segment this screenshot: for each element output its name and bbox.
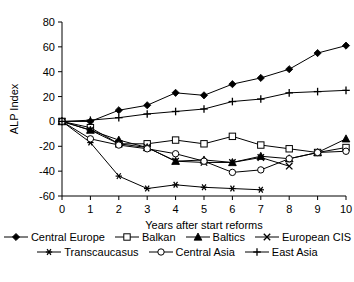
data-point-open-circle — [314, 149, 320, 155]
data-point-asterisk — [258, 187, 264, 193]
y-tick-label: 40 — [43, 66, 55, 78]
data-point-filled-diamond — [229, 81, 236, 88]
data-point-open-square — [229, 133, 235, 139]
legend-label: Balkan — [142, 231, 176, 243]
data-point-filled-diamond — [257, 74, 264, 81]
data-point-plus — [285, 89, 293, 97]
legend-item-transcaucasus[interactable]: Transcaucasus — [36, 246, 138, 258]
legend-row-2: TranscaucasusCentral AsiaEast Asia — [36, 246, 317, 258]
data-point-filled-diamond — [314, 49, 321, 56]
x-tick-label: 8 — [286, 203, 292, 215]
data-point-asterisk — [229, 186, 235, 192]
x-tick-label: 0 — [59, 203, 65, 215]
legend-label: European CIS — [282, 231, 351, 243]
data-point-open-circle — [343, 148, 349, 154]
legend-marker-open-circle — [148, 246, 174, 258]
data-point-filled-diamond — [144, 102, 151, 109]
x-tick-label: 4 — [173, 203, 179, 215]
data-point-open-square — [201, 141, 207, 147]
x-tick-label: 9 — [315, 203, 321, 215]
y-tick-label: 0 — [49, 115, 55, 127]
data-point-open-square — [172, 137, 178, 143]
legend-item-balkan[interactable]: Balkan — [114, 231, 176, 243]
legend-label: Central Asia — [176, 246, 235, 258]
legend-item-baltics[interactable]: Baltics — [185, 231, 245, 243]
data-point-filled-diamond — [286, 66, 293, 73]
plot-area: -60-40-20020406080012345678910Years afte… — [0, 0, 354, 232]
x-tick-label: 6 — [229, 203, 235, 215]
data-point-plus — [200, 105, 208, 113]
x-tick-label: 1 — [87, 203, 93, 215]
data-point-open-circle — [144, 146, 150, 152]
data-point-filled-diamond — [115, 107, 122, 114]
data-point-filled-diamond — [342, 42, 349, 49]
y-tick-label: 60 — [43, 41, 55, 53]
data-point-open-circle — [201, 158, 207, 164]
data-point-open-circle — [87, 136, 93, 142]
y-tick-label: -20 — [39, 140, 55, 152]
x-tick-label: 2 — [116, 203, 122, 215]
data-point-open-square — [286, 146, 292, 152]
legend-item-east-asia[interactable]: East Asia — [244, 246, 318, 258]
x-tick-label: 3 — [144, 203, 150, 215]
data-point-open-circle — [286, 156, 292, 162]
series-balkan — [59, 118, 349, 155]
chart-canvas: -60-40-20020406080012345678910Years afte… — [0, 0, 354, 232]
data-point-plus — [314, 88, 322, 96]
data-point-open-circle — [172, 151, 178, 157]
legend-item-central-europe[interactable]: Central Europe — [3, 231, 105, 243]
data-point-filled-diamond — [200, 92, 207, 99]
legend-label: East Asia — [272, 246, 318, 258]
legend-label: Transcaucasus — [64, 246, 138, 258]
alp-index-line-chart: -60-40-20020406080012345678910Years afte… — [0, 0, 354, 282]
legend-label: Central Europe — [31, 231, 105, 243]
legend-item-european-cis[interactable]: European CIS — [254, 231, 351, 243]
x-axis-title: Years after start reforms — [145, 219, 263, 231]
data-point-asterisk — [201, 184, 207, 190]
x-tick-label: 10 — [340, 203, 352, 215]
legend-marker-asterisk — [36, 246, 62, 258]
data-point-plus — [115, 114, 123, 122]
data-point-plus — [143, 110, 151, 118]
data-point-plus — [342, 87, 350, 95]
legend-label: Baltics — [213, 231, 245, 243]
y-tick-label: -60 — [39, 190, 55, 202]
data-point-open-circle — [116, 142, 122, 148]
data-point-open-circle — [229, 169, 235, 175]
data-point-cross-x — [286, 163, 292, 169]
data-point-asterisk — [172, 182, 178, 188]
x-tick-label: 7 — [258, 203, 264, 215]
y-tick-label: 80 — [43, 16, 55, 28]
legend-item-central-asia[interactable]: Central Asia — [148, 246, 235, 258]
x-tick-label: 5 — [201, 203, 207, 215]
y-tick-label: -40 — [39, 165, 55, 177]
y-axis-title: ALP Index — [8, 83, 20, 134]
data-point-plus — [172, 108, 180, 116]
data-point-asterisk — [144, 186, 150, 192]
data-point-plus — [257, 95, 265, 103]
legend-marker-plus — [244, 246, 270, 258]
data-point-plus — [229, 98, 237, 106]
legend-marker-cross-x — [254, 231, 280, 243]
data-point-open-square — [258, 142, 264, 148]
legend-row-1: Central EuropeBalkanBalticsEuropean CIS — [3, 231, 351, 243]
chart-legend: Central EuropeBalkanBalticsEuropean CIST… — [0, 231, 354, 279]
data-point-open-circle — [258, 167, 264, 173]
y-tick-label: 20 — [43, 91, 55, 103]
data-point-filled-triangle — [342, 135, 350, 142]
legend-marker-filled-diamond — [3, 231, 29, 243]
legend-marker-open-square — [114, 231, 140, 243]
data-point-filled-diamond — [172, 89, 179, 96]
legend-marker-filled-triangle — [185, 231, 211, 243]
